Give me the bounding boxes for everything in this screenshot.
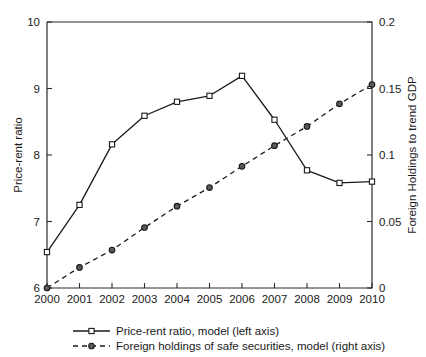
data-point-marker-circle bbox=[239, 164, 245, 170]
legend-marker-square bbox=[89, 328, 94, 333]
series-line-1 bbox=[47, 76, 372, 252]
data-point-marker-square bbox=[337, 180, 342, 185]
price-rent-foreign-holdings-chart: 678910 00.050.10.150.2 20002001200220032… bbox=[0, 0, 426, 357]
left-tick-label: 9 bbox=[34, 83, 40, 95]
data-point-marker-circle bbox=[304, 124, 310, 130]
x-tick-label: 2005 bbox=[197, 293, 223, 305]
x-tick-label: 2009 bbox=[327, 293, 353, 305]
data-point-marker-square bbox=[207, 93, 212, 98]
data-point-marker-square bbox=[44, 249, 49, 254]
left-axis-title: Price-rent ratio bbox=[12, 117, 24, 192]
data-point-marker-circle bbox=[337, 101, 343, 107]
left-tick-label: 10 bbox=[27, 16, 40, 28]
legend-label-1: Price-rent ratio, model (left axis) bbox=[116, 325, 279, 337]
data-point-marker-square bbox=[142, 113, 147, 118]
left-tick-label: 7 bbox=[34, 216, 40, 228]
data-point-marker-circle bbox=[109, 247, 115, 253]
x-tick-label: 2001 bbox=[67, 293, 93, 305]
chart-figure: 678910 00.050.10.150.2 20002001200220032… bbox=[0, 0, 426, 357]
data-point-marker-circle bbox=[207, 185, 213, 191]
data-point-marker-square bbox=[109, 142, 114, 147]
right-axis-title: Foreign Holdings to trend GDP bbox=[406, 76, 418, 234]
x-tick-label: 2008 bbox=[294, 293, 320, 305]
x-tick-label: 2000 bbox=[34, 293, 60, 305]
x-tick-label: 2010 bbox=[359, 293, 385, 305]
x-tick-label: 2003 bbox=[132, 293, 158, 305]
series-layer bbox=[44, 73, 375, 291]
data-point-marker-square bbox=[304, 168, 309, 173]
data-point-marker-circle bbox=[272, 143, 278, 149]
legend-marker-circle bbox=[89, 343, 95, 349]
chart-legend: Price-rent ratio, model (left axis)Forei… bbox=[73, 325, 385, 352]
data-point-marker-circle bbox=[369, 82, 375, 88]
data-point-marker-square bbox=[272, 117, 277, 122]
x-axis-ticks: 2000200120022003200420052006200720082009… bbox=[34, 283, 385, 305]
plot-frame bbox=[47, 22, 372, 288]
right-tick-label: 0.2 bbox=[379, 16, 395, 28]
x-tick-label: 2004 bbox=[164, 293, 190, 305]
data-point-marker-circle bbox=[44, 285, 50, 291]
data-point-marker-square bbox=[369, 179, 374, 184]
axis-box bbox=[47, 22, 372, 288]
legend-label-2: Foreign holdings of safe securities, mod… bbox=[116, 340, 385, 352]
left-tick-label: 8 bbox=[34, 149, 40, 161]
data-point-marker-circle bbox=[142, 225, 148, 231]
data-point-marker-square bbox=[77, 202, 82, 207]
right-tick-label: 0.05 bbox=[379, 216, 401, 228]
data-point-marker-square bbox=[239, 73, 244, 78]
x-tick-label: 2002 bbox=[99, 293, 125, 305]
data-point-marker-circle bbox=[174, 203, 180, 209]
right-tick-label: 0.1 bbox=[379, 149, 395, 161]
right-tick-label: 0.15 bbox=[379, 83, 401, 95]
x-tick-label: 2006 bbox=[229, 293, 255, 305]
x-tick-label: 2007 bbox=[262, 293, 288, 305]
data-point-marker-circle bbox=[77, 265, 83, 271]
data-point-marker-square bbox=[174, 99, 179, 104]
